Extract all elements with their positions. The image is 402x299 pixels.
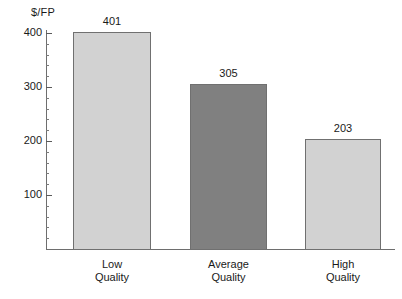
y-axis-minor-tick <box>46 217 49 218</box>
y-axis-minor-tick <box>46 130 49 131</box>
y-axis-tick-label-wrap: 400 <box>0 27 42 38</box>
y-axis-minor-tick <box>46 119 49 120</box>
y-axis-minor-tick <box>46 109 49 110</box>
y-axis-tick-label: 200 <box>0 135 42 146</box>
bar-chart: $/FP 100200300400 401LowQuality305Averag… <box>0 0 402 299</box>
x-axis-category-label-line: High <box>285 258 401 271</box>
x-axis-category-label-line: Quality <box>170 271 287 284</box>
y-axis-tick-label-wrap: 200 <box>0 135 42 146</box>
y-axis-tick-label: 400 <box>0 27 42 38</box>
y-axis-major-tick <box>46 87 52 88</box>
bar <box>190 84 267 250</box>
y-axis-minor-tick <box>46 173 49 174</box>
bar-value-label: 203 <box>305 123 381 134</box>
y-axis-major-tick <box>46 141 52 142</box>
y-axis-tick-label: 300 <box>0 81 42 92</box>
y-axis-minor-tick <box>46 184 49 185</box>
y-axis-minor-tick <box>46 206 49 207</box>
x-axis-category-label: HighQuality <box>285 258 401 284</box>
bar <box>73 32 151 250</box>
y-axis-minor-tick <box>46 76 49 77</box>
x-axis-category-label-line: Quality <box>53 271 171 284</box>
y-axis-tick-label-wrap: 100 <box>0 189 42 200</box>
y-axis-minor-tick <box>46 152 49 153</box>
y-axis-major-tick <box>46 33 52 34</box>
x-axis-category-label-line: Low <box>53 258 171 271</box>
x-axis-category-label-line: Quality <box>285 271 401 284</box>
y-axis-minor-tick <box>46 44 49 45</box>
y-axis-major-tick <box>46 195 52 196</box>
y-axis-minor-tick <box>46 65 49 66</box>
bar <box>305 139 381 250</box>
x-axis-category-label: LowQuality <box>53 258 171 284</box>
y-axis-minor-tick <box>46 227 49 228</box>
y-axis-tick-label: 100 <box>0 189 42 200</box>
y-axis-title: $/FP <box>31 6 55 18</box>
bar-value-label: 401 <box>73 16 151 27</box>
y-axis-minor-tick <box>46 98 49 99</box>
y-axis-minor-tick <box>46 163 49 164</box>
y-axis-tick-label-wrap: 300 <box>0 81 42 92</box>
x-axis-category-label-line: Average <box>170 258 287 271</box>
x-axis-category-label: AverageQuality <box>170 258 287 284</box>
y-axis-minor-tick <box>46 55 49 56</box>
y-axis-minor-tick <box>46 238 49 239</box>
bar-value-label: 305 <box>190 68 267 79</box>
